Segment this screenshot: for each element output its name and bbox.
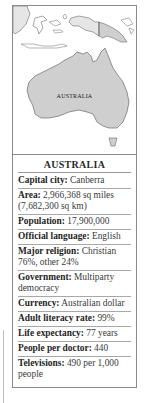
fact-value: Australian dollar xyxy=(61,298,124,308)
fact-label: Televisions: xyxy=(18,358,65,368)
country-factbox-card: AUSTRALIA AUSTRALIA Capital city: Canber… xyxy=(12,5,137,388)
fact-population: Population: 17,900,000 xyxy=(18,215,131,230)
fact-label: People per doctor: xyxy=(18,343,92,353)
fact-label: Government: xyxy=(18,272,72,282)
fact-language: Official language: English xyxy=(18,230,131,245)
fact-literacy: Adult literacy rate: 99% xyxy=(18,312,131,327)
fact-value: 77 years xyxy=(86,328,118,338)
fact-government: Government: Multiparty democracy xyxy=(18,271,131,297)
fact-value: English xyxy=(92,231,121,241)
australia-map: AUSTRALIA xyxy=(13,6,136,155)
fact-label: Area: xyxy=(18,190,41,200)
fact-life-expectancy: Life expectancy: 77 years xyxy=(18,327,131,342)
fact-label: Population: xyxy=(18,216,65,226)
fact-religion: Major religion: Christian 76%, other 24% xyxy=(18,245,131,271)
fact-value: Canberra xyxy=(70,175,104,185)
facts-title: AUSTRALIA xyxy=(18,159,131,173)
fact-label: Official language: xyxy=(18,231,90,241)
fact-value: 440 xyxy=(94,343,108,353)
facts-section: AUSTRALIA Capital city: Canberra Area: 2… xyxy=(13,155,136,382)
fact-currency: Currency: Australian dollar xyxy=(18,297,131,312)
fact-value: 17,900,000 xyxy=(67,216,109,226)
map-graphic xyxy=(13,6,136,154)
fact-label: Adult literacy rate: xyxy=(18,313,95,323)
fact-area: Area: 2,966,368 sq miles (7,682,300 sq k… xyxy=(18,189,131,215)
fact-televisions: Televisions: 490 per 1,000 people xyxy=(18,357,131,382)
fact-label: Capital city: xyxy=(18,175,68,185)
page-margin-line xyxy=(3,330,4,403)
fact-label: Currency: xyxy=(18,298,59,308)
fact-label: Major religion: xyxy=(18,246,79,256)
fact-label: Life expectancy: xyxy=(18,328,84,338)
fact-value: 99% xyxy=(97,313,114,323)
map-country-label: AUSTRALIA xyxy=(13,93,136,99)
fact-people-per-doctor: People per doctor: 440 xyxy=(18,342,131,357)
fact-capital: Capital city: Canberra xyxy=(18,174,131,189)
